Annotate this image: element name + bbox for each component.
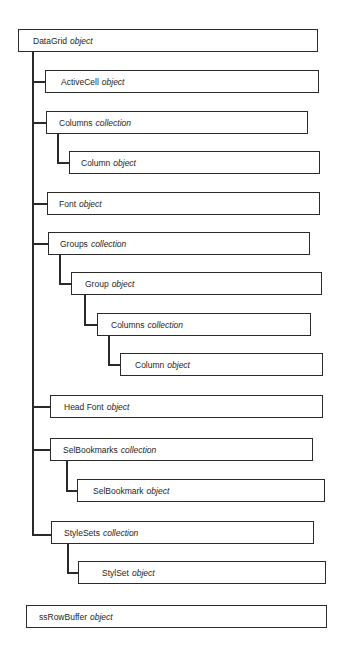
node-kind: object [70,36,93,46]
node-name: Head Font [64,402,104,412]
connector-selbookmark [66,490,77,492]
connector-columns-trunk [57,133,59,163]
connector-activecell [32,81,45,83]
node-name: SelBookmarks [63,445,118,455]
node-kind: object [90,612,113,622]
node-groups: Groups collection [48,232,310,255]
object-hierarchy-diagram: DataGrid object ActiveCell object Column… [0,0,342,650]
node-stylset: StylSet object [78,561,326,584]
node-ssrowbuffer: ssRowBuffer object [26,605,327,628]
node-activecell: ActiveCell object [45,70,319,93]
connector-selbookmarks-trunk [66,460,68,491]
node-kind: object [79,199,102,209]
node-kind: collection [96,118,131,128]
node-selbookmark: SelBookmark object [77,479,325,502]
node-kind: object [113,158,136,168]
node-font: Font object [47,192,320,215]
node-kind: collection [103,528,138,538]
node-kind: collection [91,239,126,249]
connector-groups-trunk [59,254,61,284]
connector-group-columns-trunk [108,335,110,365]
node-name: StyleSets [64,528,100,538]
node-name: ActiveCell [61,77,99,87]
node-name: Group [85,279,109,289]
connector-datagrid-trunk [32,51,34,535]
node-selbookmarks: SelBookmarks collection [50,438,313,461]
node-kind: object [147,486,170,496]
connector-group-trunk [84,295,86,325]
node-headfont: Head Font object [50,395,323,418]
connector-groups [32,243,48,245]
node-name: DataGrid [33,36,67,46]
connector-columns [32,122,46,124]
node-kind: object [107,402,130,412]
node-name: Groups [60,239,88,249]
connector-selbookmarks [32,449,50,451]
connector-group-column [108,364,120,366]
connector-font [32,203,47,205]
node-name: SelBookmark [93,486,144,496]
connector-column [57,162,69,164]
node-datagrid: DataGrid object [18,29,318,52]
node-name: Font [59,199,76,209]
node-stylesets: StyleSets collection [51,521,314,544]
connector-stylesets [32,534,51,536]
node-kind: object [167,360,190,370]
node-kind: collection [148,320,183,330]
node-kind: object [132,568,155,578]
node-name: Columns [59,118,93,128]
node-name: Columns [111,320,145,330]
node-columns: Columns collection [46,111,308,134]
connector-group [59,283,71,285]
node-kind: object [112,279,135,289]
node-column: Column object [69,151,320,174]
node-kind: object [102,77,125,87]
node-group: Group object [71,272,322,295]
node-name: Column [81,158,110,168]
connector-headfont [32,406,50,408]
connector-group-columns [84,324,97,326]
node-group-columns: Columns collection [97,313,311,336]
connector-stylesets-trunk [67,543,69,573]
connector-stylset [67,572,78,574]
node-kind: collection [121,445,156,455]
node-group-column: Column object [120,353,323,376]
node-name: Column [135,360,164,370]
node-name: StylSet [102,568,129,578]
node-name: ssRowBuffer [39,612,87,622]
